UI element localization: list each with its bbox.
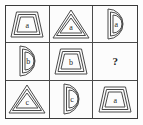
matrix-puzzle-root: a a a b xyxy=(0,0,143,125)
matrix-cell-r2c3-answer-slot[interactable]: ? xyxy=(93,43,137,80)
trapezoid-icon xyxy=(94,81,136,117)
question-mark-icon: ? xyxy=(112,56,118,67)
trapezoid-icon xyxy=(6,6,48,42)
semicircle-icon xyxy=(97,6,133,42)
matrix-cell-r3c3[interactable]: a xyxy=(93,81,137,118)
matrix-grid: a a a b xyxy=(5,5,138,119)
matrix-cell-r1c2[interactable]: a xyxy=(50,6,94,43)
matrix-cell-r3c2[interactable]: c xyxy=(50,81,94,118)
matrix-cell-r3c1[interactable]: c xyxy=(6,81,50,118)
semicircle-icon xyxy=(9,43,45,79)
matrix-cell-r1c1[interactable]: a xyxy=(6,6,50,43)
matrix-cell-r2c1[interactable]: b xyxy=(6,43,50,80)
matrix-cell-r2c2[interactable]: b xyxy=(50,43,94,80)
semicircle-icon xyxy=(53,81,89,117)
matrix-cell-r1c3[interactable]: a xyxy=(93,6,137,43)
triangle-icon xyxy=(50,6,92,42)
trapezoid-icon xyxy=(50,43,92,79)
triangle-icon xyxy=(6,81,48,117)
